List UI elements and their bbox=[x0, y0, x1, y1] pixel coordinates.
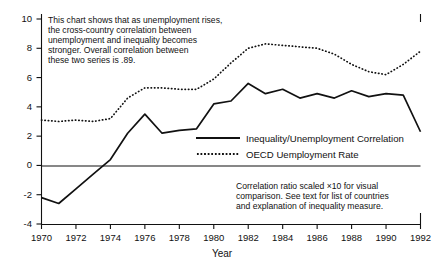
bottom-right-note: Correlation ratio scaled ×10 for visualc… bbox=[236, 182, 389, 212]
x-tick-label: 1970 bbox=[25, 232, 59, 243]
x-tick-label: 1974 bbox=[93, 232, 127, 243]
x-tick-label: 1990 bbox=[369, 232, 403, 243]
legend-swatch-dotted bbox=[196, 150, 240, 158]
x-tick-label: 1978 bbox=[162, 232, 196, 243]
y-tick-label: 6 bbox=[8, 72, 32, 83]
y-tick-label: 4 bbox=[8, 101, 32, 112]
legend-item-inequality-correlation[interactable]: Inequality/Unemployment Correlation bbox=[196, 132, 404, 144]
y-tick-label: 0 bbox=[8, 159, 32, 170]
y-tick-label: 10 bbox=[8, 13, 32, 24]
note-line: and explanation of inequality measure. bbox=[236, 202, 389, 212]
legend-item-oecd-unemployment[interactable]: OECD Uemployment Rate bbox=[196, 148, 359, 160]
y-tick-label: 8 bbox=[8, 42, 32, 53]
top-left-note: This chart shows that as unemployment ri… bbox=[48, 16, 222, 66]
chart-container: 1086420-2-4 1970197219741976197819801982… bbox=[0, 0, 444, 268]
x-tick-label: 1992 bbox=[404, 232, 438, 243]
x-tick-label: 1980 bbox=[197, 232, 231, 243]
x-tick-label: 1982 bbox=[231, 232, 265, 243]
x-tick-label: 1976 bbox=[128, 232, 162, 243]
y-tick-marks bbox=[37, 19, 42, 224]
x-tick-label: 1984 bbox=[266, 232, 300, 243]
legend-swatch-solid bbox=[196, 134, 240, 142]
note-line: these two series is .89. bbox=[48, 56, 222, 66]
x-tick-label: 1972 bbox=[59, 232, 93, 243]
legend-label-oecd-unemployment: OECD Uemployment Rate bbox=[246, 149, 359, 160]
x-tick-label: 1988 bbox=[335, 232, 369, 243]
legend-label-inequality-correlation: Inequality/Unemployment Correlation bbox=[246, 133, 404, 144]
y-tick-label: 2 bbox=[8, 130, 32, 141]
x-axis-title: Year bbox=[0, 248, 444, 259]
y-tick-label: -2 bbox=[8, 189, 32, 200]
x-tick-label: 1986 bbox=[300, 232, 334, 243]
y-tick-label: -4 bbox=[8, 218, 32, 229]
